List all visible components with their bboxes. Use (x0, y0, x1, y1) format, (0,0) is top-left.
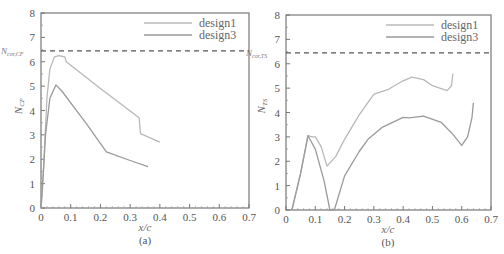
y-tick-label: 8 (275, 9, 281, 21)
y-tick-label: 0 (30, 202, 36, 214)
chart-legend: design1 design3 (386, 18, 478, 44)
x-tick-label: 0.3 (123, 211, 137, 223)
x-tick-label: 0.1 (64, 211, 78, 223)
x-tick-label: 0.3 (367, 213, 381, 225)
y-tick-label: 6 (30, 56, 36, 68)
x-tick-label: 0.7 (242, 211, 256, 223)
legend-label-design3: design3 (199, 28, 236, 42)
x-tick-label: 0.6 (212, 211, 226, 223)
series-lines (292, 74, 474, 211)
figure-canvas: 012345678 00.10.20.30.40.50.60.7 Ncor,CF… (0, 0, 504, 254)
x-tick-label: 0.2 (94, 211, 108, 223)
y-tick-label: 5 (275, 82, 281, 94)
y-tick-label: 4 (30, 105, 36, 117)
x-tick-label: 0.5 (426, 213, 440, 225)
y-tick-label: 7 (30, 31, 36, 43)
reference-line-label: Ncor,TS (245, 48, 267, 59)
y-tick-label: 2 (275, 155, 281, 167)
x-tick-label: 0.4 (396, 213, 410, 225)
x-tick-label: 0 (38, 211, 44, 223)
y-tick-label: 3 (275, 131, 281, 143)
y-tick-label: 1 (30, 178, 36, 190)
chart-panel-a: 012345678 00.10.20.30.40.50.60.7 Ncor,CF… (0, 7, 256, 247)
x-tick-label: 0.6 (455, 213, 469, 225)
legend-label-design3: design3 (441, 30, 478, 44)
panel-caption: (a) (139, 234, 152, 247)
x-tick-label: 0.4 (153, 211, 167, 223)
chart-panel-b: 012345678 00.10.20.30.40.50.60.7 Ncor,TS… (245, 9, 498, 249)
x-tick-label: 0.2 (338, 213, 352, 225)
x-tick-label: 0.5 (183, 211, 197, 223)
x-tick-label: 0.7 (484, 213, 498, 225)
series-line-design1 (292, 74, 453, 211)
reference-line-label: Ncor,CF (0, 46, 24, 57)
y-tick-label: 5 (30, 80, 36, 92)
plot-frame (286, 15, 491, 210)
y-tick-label: 3 (30, 129, 36, 141)
series-line-design3 (41, 85, 148, 208)
series-lines (41, 56, 160, 208)
panel-caption: (b) (382, 236, 395, 249)
x-tick-label: 0 (283, 213, 289, 225)
plot-frame (41, 13, 249, 208)
y-axis-title: NTS (255, 98, 269, 114)
y-tick-label: 2 (30, 153, 36, 165)
y-tick-label: 1 (275, 180, 281, 192)
x-tick-label: 0.1 (308, 213, 322, 225)
chart-legend: design1 design3 (144, 16, 236, 42)
x-axis-title: x/c (138, 221, 152, 233)
series-line-design3 (292, 103, 474, 210)
x-axis-title: x/c (381, 223, 395, 235)
series-line-design1 (41, 56, 160, 208)
y-tick-label: 4 (275, 107, 281, 119)
y-tick-label: 8 (30, 7, 36, 19)
y-axis-ticks: 012345678 (275, 9, 291, 216)
y-tick-label: 0 (275, 204, 281, 216)
y-tick-label: 6 (275, 58, 281, 70)
y-tick-label: 7 (275, 33, 281, 45)
y-axis-title: NCF (12, 97, 26, 115)
